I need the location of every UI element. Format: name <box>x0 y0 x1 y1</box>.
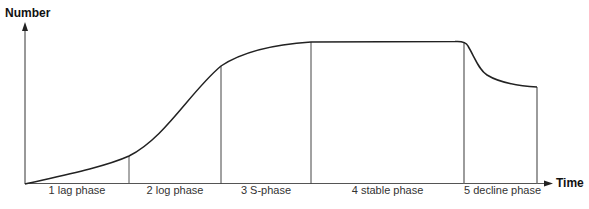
growth-curve <box>25 41 537 184</box>
x-axis-title: Time <box>556 176 584 190</box>
phase-label-s: 3 S-phase <box>221 184 311 196</box>
phase-label-log: 2 log phase <box>129 184 221 196</box>
y-axis-title: Number <box>5 6 50 20</box>
phase-label-decline: 5 decline phase <box>464 184 539 196</box>
phase-label-lag: 1 lag phase <box>25 184 129 196</box>
x-axis-arrow-icon <box>544 181 553 187</box>
growth-curve-diagram <box>0 0 589 209</box>
y-axis-arrow-icon <box>22 22 28 31</box>
phase-label-stable: 4 stable phase <box>311 184 464 196</box>
